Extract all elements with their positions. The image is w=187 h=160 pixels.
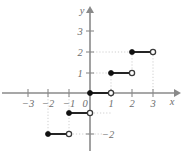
tick-label-x-neg2: −2 [42, 98, 55, 109]
y-axis-arrowhead [86, 6, 94, 13]
closed-point-2-2 [130, 50, 135, 55]
tick-label-y-one: 1 [77, 68, 82, 79]
open-point-3-2 [150, 49, 155, 54]
step-function-graph: −3 −2 −1 0 1 2 3 3 2 1 −2 x y [0, 0, 187, 160]
tick-label-x-zero: 0 [82, 98, 88, 109]
open-point-2-1 [129, 70, 134, 75]
open-point-neg1-neg2 [66, 131, 71, 136]
closed-point-neg2-neg2 [46, 132, 51, 137]
axis-labels: x y [79, 5, 175, 107]
tick-label-x-one: 1 [108, 98, 113, 109]
open-point-0-neg1 [87, 110, 92, 115]
tick-label-x-neg3: −3 [22, 98, 34, 109]
tick-labels: −3 −2 −1 0 1 2 3 3 2 1 −2 [22, 26, 156, 140]
axes [2, 6, 181, 151]
y-axis-label: y [79, 5, 85, 16]
x-axis-label: x [169, 96, 175, 107]
tick-label-y-negtwo: −2 [102, 129, 115, 140]
open-point-1-0 [108, 90, 113, 95]
closed-point-1-1 [109, 71, 114, 76]
x-axis-arrowhead [174, 89, 181, 97]
tick-label-x-neg1: −1 [63, 98, 75, 109]
plot-canvas: −3 −2 −1 0 1 2 3 3 2 1 −2 x y [0, 0, 187, 160]
tick-label-x-three: 3 [149, 98, 155, 109]
tick-label-x-two: 2 [129, 98, 135, 109]
closed-point-0-0 [88, 91, 93, 96]
tick-label-y-two: 2 [77, 47, 83, 58]
tick-label-y-three: 3 [76, 26, 82, 37]
closed-point-neg1-neg1 [67, 111, 72, 116]
